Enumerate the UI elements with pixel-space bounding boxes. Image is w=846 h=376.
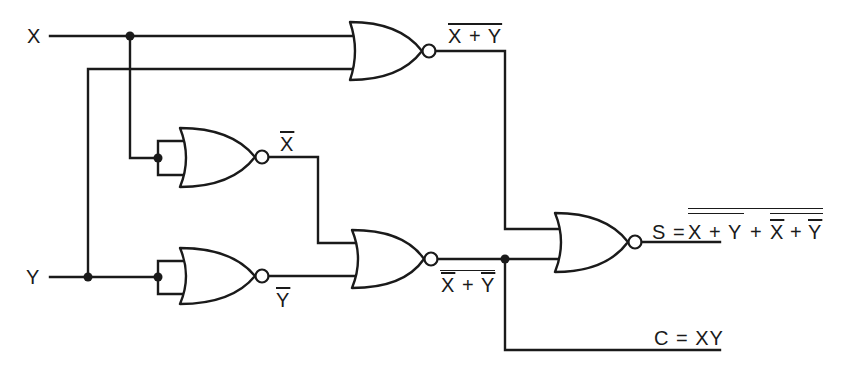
- nor1-output-wire: [436, 51, 562, 229]
- nor4-out-y-label: Y: [481, 275, 495, 295]
- sum-plus2-label: +: [750, 222, 763, 242]
- sum-inner-overline-2: [770, 213, 823, 214]
- nor-gate-5-bubble: [629, 236, 642, 249]
- sum-y-label: Y: [728, 222, 742, 242]
- nor-gate-2: [180, 128, 255, 187]
- x-input-label: X: [27, 26, 41, 46]
- y-input-label: Y: [26, 267, 40, 287]
- x-bar-wire: [269, 157, 358, 243]
- carry-label: C = XY: [654, 328, 724, 348]
- nor-gate-4: [352, 230, 424, 288]
- sum-xbar-label: X: [770, 222, 784, 242]
- sum-outer-overline: [688, 208, 823, 209]
- nor4-out-plus-label: +: [462, 275, 475, 295]
- nor-gate-1-bubble: [423, 45, 436, 58]
- x-bar-label: X: [280, 134, 294, 154]
- nor-gate-3: [180, 248, 255, 304]
- x-branch-wire: [130, 36, 158, 158]
- nor-gate-3-bubble: [256, 270, 269, 283]
- nor4-out-x-label: X: [441, 275, 455, 295]
- nor-gate-5: [555, 213, 628, 272]
- nor-gate-4-bubble: [425, 253, 438, 266]
- sum-plus1-label: +: [709, 222, 722, 242]
- nor1-output-label: X + Y: [448, 26, 502, 46]
- half-adder-circuit-diagram: [0, 0, 846, 376]
- sum-plus3-label: +: [790, 222, 803, 242]
- sum-x-label: X: [688, 222, 702, 242]
- nor4-outer-overline: [440, 270, 495, 271]
- sum-ybar-label: Y: [808, 222, 822, 242]
- sum-prefix-label: S =: [652, 222, 686, 242]
- nor-gate-2-bubble: [256, 151, 269, 164]
- y-bar-label: Y: [276, 290, 290, 310]
- sum-inner-overline-1: [688, 213, 744, 214]
- nor-gate-1: [350, 22, 422, 80]
